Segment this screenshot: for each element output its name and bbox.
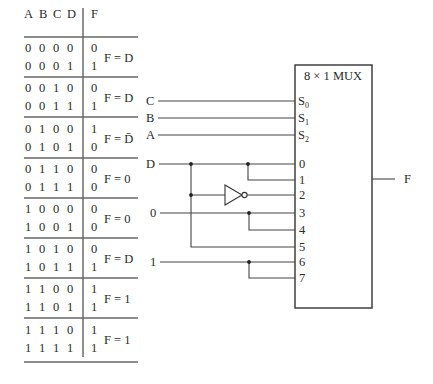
- svg-text:1: 1: [91, 282, 97, 296]
- svg-text:0: 0: [25, 41, 31, 55]
- table-row: 0 0 0 0 0: [25, 41, 97, 55]
- svg-text:0: 0: [91, 202, 97, 216]
- data-pin-4: 4: [299, 223, 306, 237]
- svg-text:0: 0: [39, 260, 45, 274]
- truth-table-group: 1 0 1 0 0 1 0 1 1 1 F = D: [25, 242, 133, 274]
- header-d: D: [67, 7, 76, 21]
- svg-text:0: 0: [39, 242, 45, 256]
- svg-text:1: 1: [25, 242, 31, 256]
- svg-text:1: 1: [67, 59, 73, 73]
- svg-text:1: 1: [67, 341, 73, 355]
- svg-text:0: 0: [91, 180, 97, 194]
- svg-text:1: 1: [67, 300, 73, 314]
- table-row: 1 0 1 1 1: [25, 260, 97, 274]
- select-wires: [158, 101, 295, 135]
- svg-text:1: 1: [53, 162, 59, 176]
- svg-text:0: 0: [39, 41, 45, 55]
- svg-text:0: 0: [53, 41, 59, 55]
- table-row: 1 0 0 1 0: [25, 220, 97, 234]
- group-expression: F = D: [104, 252, 133, 266]
- svg-text:1: 1: [39, 323, 45, 337]
- svg-text:0: 0: [91, 220, 97, 234]
- table-row: 1 1 0 1 1: [25, 300, 97, 314]
- svg-text:0: 0: [53, 282, 59, 296]
- truth-table-group: 0 1 0 0 1 0 1 0 1 0 F = D̄: [25, 122, 133, 154]
- select-pin-s1: S 1: [298, 111, 309, 127]
- group-expression: F = 1: [104, 292, 131, 306]
- table-row: 1 0 1 0 0: [25, 242, 97, 256]
- svg-text:1: 1: [53, 323, 59, 337]
- svg-text:0: 0: [25, 180, 31, 194]
- svg-text:1: 1: [91, 99, 97, 113]
- svg-text:0: 0: [53, 220, 59, 234]
- table-row: 0 0 1 1 1: [25, 99, 97, 113]
- svg-text:0: 0: [305, 101, 309, 110]
- group-expression: F = D: [104, 91, 133, 105]
- svg-text:S: S: [298, 111, 305, 125]
- table-row: 0 0 1 0 0: [25, 81, 97, 95]
- svg-text:0: 0: [67, 323, 73, 337]
- mux-title: 8 × 1 MUX: [304, 69, 362, 83]
- header-c: C: [53, 7, 61, 21]
- svg-text:0: 0: [91, 41, 97, 55]
- svg-text:1: 1: [39, 140, 45, 154]
- truth-table-group: 1 1 1 0 1 1 1 1 1 1 F = 1: [25, 323, 131, 355]
- data-pin-5: 5: [299, 240, 305, 254]
- svg-text:0: 0: [39, 220, 45, 234]
- svg-text:1: 1: [67, 99, 73, 113]
- data-pin-1: 1: [299, 173, 305, 187]
- svg-text:0: 0: [67, 202, 73, 216]
- data-pin-3: 3: [299, 206, 305, 220]
- svg-text:0: 0: [67, 122, 73, 136]
- svg-text:1: 1: [53, 341, 59, 355]
- svg-text:0: 0: [67, 242, 73, 256]
- data-pin-7: 7: [299, 271, 305, 285]
- truth-table-group: 1 0 0 0 0 1 0 0 1 0 F = 0: [25, 202, 131, 234]
- svg-text:0: 0: [39, 81, 45, 95]
- truth-table-group: 1 1 0 0 1 1 1 0 1 1 F = 1: [25, 282, 131, 314]
- table-row: 0 1 1 1 0: [25, 180, 97, 194]
- svg-text:0: 0: [53, 202, 59, 216]
- svg-text:1: 1: [53, 180, 59, 194]
- svg-text:1: 1: [25, 282, 31, 296]
- output-label: F: [404, 172, 411, 186]
- svg-text:0: 0: [53, 140, 59, 154]
- svg-text:1: 1: [67, 220, 73, 234]
- group-expression: F = D: [104, 51, 133, 65]
- data-pin-6: 6: [299, 255, 305, 269]
- group-expression: F = 0: [104, 212, 131, 226]
- svg-text:0: 0: [67, 162, 73, 176]
- svg-text:0: 0: [53, 300, 59, 314]
- data-pin-2: 2: [299, 188, 305, 202]
- svg-text:1: 1: [91, 122, 97, 136]
- truth-table-group: 0 0 0 0 0 0 0 0 1 1 F = D: [25, 41, 133, 73]
- truth-table-group: 0 0 1 0 0 0 0 1 1 1 F = D: [25, 81, 133, 113]
- table-row: 0 1 0 0 1: [25, 122, 97, 136]
- svg-text:0: 0: [25, 81, 31, 95]
- svg-text:0: 0: [91, 162, 97, 176]
- svg-text:1: 1: [25, 341, 31, 355]
- source-d-label: D: [146, 157, 155, 171]
- header-f: F: [91, 7, 98, 21]
- table-row: 1 1 0 0 1: [25, 282, 97, 296]
- svg-text:0: 0: [67, 41, 73, 55]
- select-pin-s0: S 0: [298, 94, 309, 110]
- table-row: 0 1 0 1 0: [25, 140, 97, 154]
- not-gate-icon: [225, 185, 247, 205]
- svg-text:0: 0: [25, 122, 31, 136]
- select-signal-a: A: [146, 128, 155, 142]
- truth-table-group: 0 1 1 0 0 0 1 1 1 0 F = 0: [25, 162, 131, 194]
- group-expression: F = 1: [104, 333, 131, 347]
- svg-text:2: 2: [305, 135, 309, 144]
- table-row: 1 1 1 1 1: [25, 341, 97, 355]
- svg-text:1: 1: [25, 202, 31, 216]
- svg-text:1: 1: [25, 300, 31, 314]
- svg-text:0: 0: [53, 59, 59, 73]
- svg-text:0: 0: [25, 59, 31, 73]
- svg-text:1: 1: [25, 220, 31, 234]
- svg-text:0: 0: [67, 282, 73, 296]
- svg-text:1: 1: [39, 282, 45, 296]
- svg-text:1: 1: [91, 260, 97, 274]
- group-expression: F = D̄: [104, 132, 133, 146]
- select-signal-c: C: [146, 94, 154, 108]
